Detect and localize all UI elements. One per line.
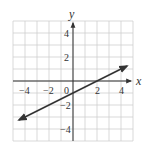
x-tick-label: −4 — [19, 85, 30, 96]
x-tick-label: 4 — [119, 85, 124, 96]
x-axis-label: x — [135, 74, 142, 88]
x-tick-label: −2 — [43, 85, 54, 96]
x-tick-label: 0 — [64, 85, 69, 96]
y-tick-label: −2 — [60, 100, 71, 111]
coordinate-plane: x y −4 −2 0 2 4 4 2 −2 −4 — [0, 0, 147, 149]
y-tick-label: 4 — [64, 28, 69, 39]
y-tick-label: 2 — [64, 52, 69, 63]
x-tick-label: 2 — [95, 85, 100, 96]
y-tick-label: −4 — [60, 124, 71, 135]
y-axis-label: y — [68, 7, 75, 21]
